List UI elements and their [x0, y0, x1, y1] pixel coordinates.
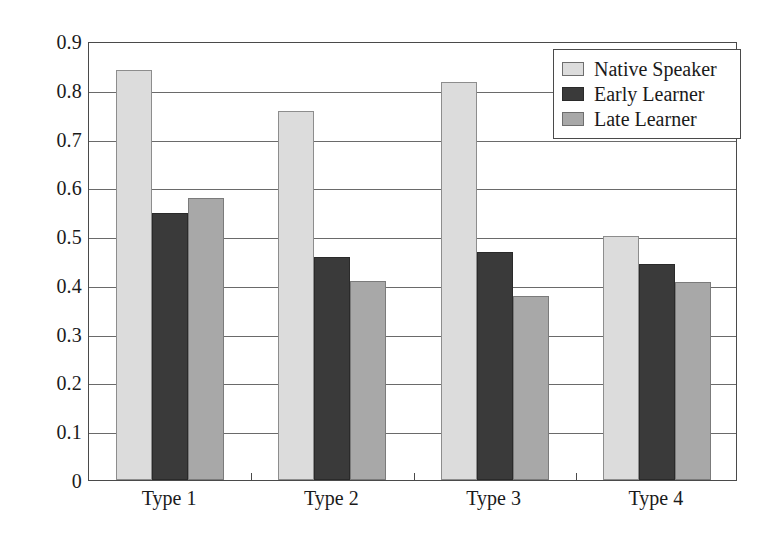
- bar-type-3-early-learner: [477, 252, 513, 480]
- gridline-0.7: [89, 141, 736, 142]
- bar-type-1-late-learner: [188, 198, 224, 480]
- bar-type-3-native-speaker: [441, 82, 477, 481]
- legend-item-late-learner[interactable]: Late Learner: [562, 106, 732, 131]
- legend: Native SpeakerEarly LearnerLate Learner: [553, 49, 741, 139]
- legend-item-early-learner[interactable]: Early Learner: [562, 81, 732, 106]
- x-tick-label-type-2: Type 2: [304, 487, 359, 510]
- y-tick-label-0.3: 0.3: [36, 325, 82, 345]
- legend-item-native-speaker[interactable]: Native Speaker: [562, 56, 732, 81]
- y-tick-label-0.9: 0.9: [36, 32, 82, 52]
- bar-type-4-early-learner: [639, 264, 675, 480]
- bar-type-1-early-learner: [152, 213, 188, 480]
- bar-type-4-late-learner: [675, 282, 711, 480]
- y-tick-label-0: 0: [36, 471, 82, 491]
- x-tick-label-type-1: Type 1: [142, 487, 197, 510]
- legend-label: Native Speaker: [594, 59, 717, 79]
- y-tick-label-0.6: 0.6: [36, 178, 82, 198]
- legend-label: Late Learner: [594, 109, 697, 129]
- legend-swatch-icon: [562, 87, 584, 101]
- legend-swatch-icon: [562, 62, 584, 76]
- y-axis: 00.10.20.30.40.50.60.70.80.9: [26, 0, 82, 539]
- x-tick-mark: [414, 473, 415, 480]
- y-tick-label-0.4: 0.4: [36, 276, 82, 296]
- y-tick-label-0.8: 0.8: [36, 81, 82, 101]
- y-tick-label-0.5: 0.5: [36, 227, 82, 247]
- legend-swatch-icon: [562, 112, 584, 126]
- bar-type-2-native-speaker: [278, 111, 314, 480]
- x-tick-label-type-4: Type 4: [629, 487, 684, 510]
- y-tick-label-0.1: 0.1: [36, 422, 82, 442]
- bar-type-1-native-speaker: [116, 70, 152, 480]
- y-tick-label-0.2: 0.2: [36, 373, 82, 393]
- gridline-0.6: [89, 189, 736, 190]
- x-tick-mark: [576, 473, 577, 480]
- bar-chart: 00.10.20.30.40.50.60.70.80.9 Type 1Type …: [0, 0, 773, 539]
- y-tick-label-0.7: 0.7: [36, 130, 82, 150]
- bar-type-2-late-learner: [350, 281, 386, 480]
- bar-type-2-early-learner: [314, 257, 350, 480]
- bar-type-4-native-speaker: [603, 236, 639, 480]
- legend-label: Early Learner: [594, 84, 704, 104]
- x-tick-label-type-3: Type 3: [466, 487, 521, 510]
- x-tick-mark: [251, 473, 252, 480]
- bar-type-3-late-learner: [513, 296, 549, 480]
